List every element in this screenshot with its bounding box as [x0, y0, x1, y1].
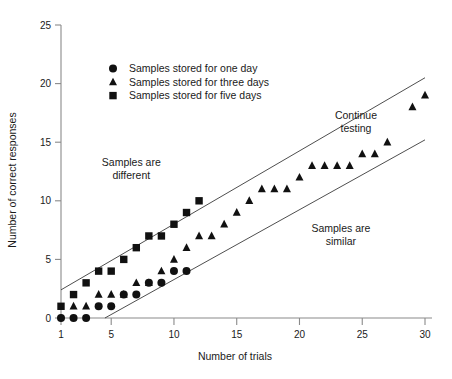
y-tick-label: 25	[40, 20, 52, 31]
marker-triangle	[383, 138, 391, 146]
series-triangle	[70, 91, 429, 310]
marker-triangle	[308, 161, 316, 169]
marker-square	[108, 267, 115, 274]
marker-triangle	[70, 302, 78, 310]
marker-square	[120, 256, 127, 263]
marker-square	[133, 244, 140, 251]
marker-triangle	[208, 231, 216, 239]
marker-triangle	[233, 208, 241, 216]
x-axis-title: Number of trials	[198, 350, 272, 362]
annotation-line: Samples are	[311, 222, 370, 234]
marker-triangle	[258, 185, 266, 193]
x-tick-label: 10	[168, 329, 180, 340]
data-point-markers	[57, 91, 429, 322]
samples-are-different: Samples aredifferent	[102, 156, 161, 181]
marker-triangle	[170, 255, 178, 263]
annotation-line: similar	[326, 235, 357, 247]
legend-entry: Samples stored for three days	[109, 76, 269, 88]
annotation-line: Continue	[335, 109, 377, 121]
marker-triangle	[408, 103, 416, 111]
marker-triangle	[371, 149, 379, 157]
y-tick-label: 15	[40, 137, 52, 148]
x-tick-label: 5	[108, 329, 114, 340]
x-axis-ticks: 151015202530	[58, 318, 431, 340]
chart-container: 0510152025 151015202530 Samples arediffe…	[0, 0, 452, 379]
marker-square	[158, 232, 165, 239]
marker-triangle	[283, 185, 291, 193]
marker-circle	[57, 314, 65, 322]
marker-square	[195, 197, 202, 204]
marker-triangle	[132, 278, 140, 286]
scatter-plot: 0510152025 151015202530 Samples arediffe…	[0, 0, 452, 379]
marker-triangle	[245, 196, 253, 204]
samples-are-similar: Samples aresimilar	[311, 222, 370, 247]
marker-square	[82, 279, 89, 286]
marker-circle	[70, 314, 78, 322]
marker-triangle	[183, 243, 191, 251]
marker-square	[145, 232, 152, 239]
annotation-line: Samples are	[102, 156, 161, 168]
annotation-line: testing	[340, 122, 371, 134]
chart-legend: Samples stored for one daySamples stored…	[109, 62, 269, 101]
x-tick-label: 25	[357, 329, 369, 340]
y-tick-label: 10	[40, 195, 52, 206]
marker-square	[183, 209, 190, 216]
marker-triangle	[421, 91, 429, 99]
marker-circle	[170, 267, 178, 275]
y-axis-title: Number of correct responses	[6, 112, 18, 247]
legend-entry: Samples stored for five days	[109, 89, 261, 101]
marker-square	[57, 303, 64, 310]
marker-triangle	[333, 161, 341, 169]
legend-label: Samples stored for five days	[129, 89, 261, 101]
marker-triangle	[270, 185, 278, 193]
marker-triangle	[220, 220, 228, 228]
annotation-line: different	[112, 169, 150, 181]
marker-circle	[95, 302, 103, 310]
marker-circle	[132, 291, 140, 299]
marker-triangle	[157, 267, 165, 275]
marker-square	[70, 291, 77, 298]
marker-square	[95, 267, 102, 274]
marker-triangle	[321, 161, 329, 169]
marker-square	[170, 221, 177, 228]
legend-marker-triangle	[109, 78, 117, 86]
y-tick-label: 0	[45, 313, 51, 324]
marker-circle	[183, 267, 191, 275]
y-tick-label: 5	[45, 254, 51, 265]
legend-label: Samples stored for one day	[129, 62, 258, 74]
series-square	[57, 197, 202, 310]
marker-triangle	[82, 302, 90, 310]
marker-triangle	[107, 290, 115, 298]
legend-entry: Samples stored for one day	[109, 62, 258, 74]
marker-circle	[82, 314, 90, 322]
marker-triangle	[195, 231, 203, 239]
legend-marker-square	[109, 92, 116, 99]
continue-testing: Continuetesting	[335, 109, 377, 134]
marker-triangle	[358, 149, 366, 157]
marker-triangle	[95, 290, 103, 298]
legend-marker-circle	[109, 65, 117, 73]
marker-circle	[107, 302, 115, 310]
y-axis-ticks: 0510152025	[40, 20, 61, 324]
marker-circle	[157, 279, 165, 287]
y-tick-label: 20	[40, 78, 52, 89]
x-tick-label: 15	[231, 329, 243, 340]
legend-label: Samples stored for three days	[129, 76, 269, 88]
x-tick-label: 20	[294, 329, 306, 340]
marker-triangle	[346, 161, 354, 169]
x-tick-label: 30	[419, 329, 431, 340]
x-tick-label: 1	[58, 329, 64, 340]
marker-triangle	[295, 173, 303, 181]
